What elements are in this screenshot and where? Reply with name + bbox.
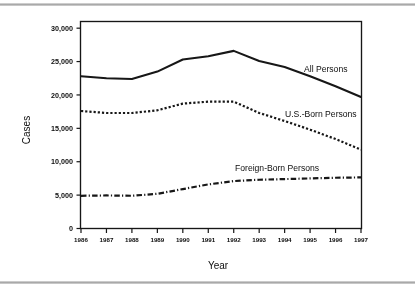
y-axis-title: Cases <box>21 116 32 144</box>
x-axis-tick-label: 1989 <box>150 236 164 243</box>
series-label-all-persons: All Persons <box>304 64 347 74</box>
x-axis-tick-label: 1996 <box>329 236 343 243</box>
x-axis-title: Year <box>208 260 229 271</box>
y-axis-tick-label: 30,000 <box>51 24 73 33</box>
x-axis-tick-label: 1994 <box>278 236 292 243</box>
y-axis-tick-label: 10,000 <box>51 157 73 166</box>
y-axis-tick-labels: 05,00010,00015,00020,00025,00030,000 <box>51 24 73 233</box>
y-axis-tick-label: 20,000 <box>51 91 73 100</box>
chart-figure: 05,00010,00015,00020,00025,00030,000 198… <box>0 0 415 289</box>
y-axis-tick-label: 15,000 <box>51 124 73 133</box>
y-axis-tick-label: 0 <box>69 224 73 233</box>
x-axis-tick-label: 1992 <box>227 236 241 243</box>
x-axis-tick-label: 1991 <box>201 236 215 243</box>
series-label-us-born-persons: U.S.-Born Persons <box>285 109 357 119</box>
series-line-foreign-born-persons <box>81 177 361 195</box>
x-axis-tick-label: 1997 <box>354 236 368 243</box>
x-axis-tick-label: 1988 <box>125 236 139 243</box>
y-axis-tick-label: 5,000 <box>55 191 73 200</box>
x-axis-tick-label: 1990 <box>176 236 190 243</box>
x-axis-tick-label: 1993 <box>252 236 266 243</box>
x-axis-tick-label: 1986 <box>74 236 88 243</box>
x-axis-tick-label: 1995 <box>303 236 317 243</box>
line-chart-svg: 05,00010,00015,00020,00025,00030,000 198… <box>0 0 415 289</box>
y-axis-tick-label: 25,000 <box>51 57 73 66</box>
x-axis-tick-labels: 1986198719881989199019911992199319941995… <box>74 236 368 243</box>
x-axis-tick-label: 1987 <box>100 236 114 243</box>
series-label-foreign-born-persons: Foreign-Born Persons <box>235 163 319 173</box>
